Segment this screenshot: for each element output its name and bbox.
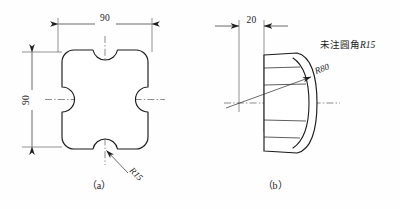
note-text-radius: R15	[359, 40, 376, 50]
dim-label-width-a: 90	[100, 13, 110, 23]
dim-label-depth-b: 20	[247, 15, 257, 25]
dim-label-height-a: 90	[21, 95, 31, 105]
caption-figure-a: （a）	[87, 180, 111, 191]
note-text-cn: 未注圆角	[320, 39, 360, 50]
caption-figure-b: （b）	[263, 180, 288, 191]
radius-label-r80: R80	[312, 61, 330, 76]
drawing-sheet: 90 90 R15 （a） 20	[0, 0, 400, 209]
note-unspecified-fillet: 未注圆角R15	[320, 39, 376, 50]
part-outline-front-view	[62, 50, 148, 149]
radius-label-r15-a: R15	[127, 165, 145, 183]
leader-line-r15-a	[107, 151, 129, 174]
drawing-canvas: 90 90 R15 （a） 20	[0, 0, 400, 209]
figure-a-group: 90 90 R15 （a）	[21, 13, 165, 191]
figure-b-group: 20 R80 未注圆角R15 （b）	[215, 15, 376, 191]
